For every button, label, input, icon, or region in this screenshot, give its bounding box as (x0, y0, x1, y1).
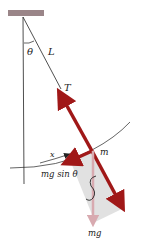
displacement-label: x (50, 150, 55, 159)
ceiling-support (8, 10, 44, 16)
displacement-arrow (40, 154, 70, 163)
theta-label: θ (27, 46, 33, 57)
weight-label: mg (88, 228, 102, 238)
tension-arrow (62, 97, 92, 151)
pendulum-diagram: θ L T m x mg sin θ mg (0, 0, 165, 248)
tension-label: T (64, 82, 72, 93)
length-label: L (47, 46, 55, 57)
theta-arc (24, 41, 34, 43)
swing-arc (10, 122, 130, 168)
mass-label: m (100, 147, 109, 157)
restoring-force-label: mg sin θ (41, 169, 78, 179)
vertical-reference-line (23, 17, 24, 184)
